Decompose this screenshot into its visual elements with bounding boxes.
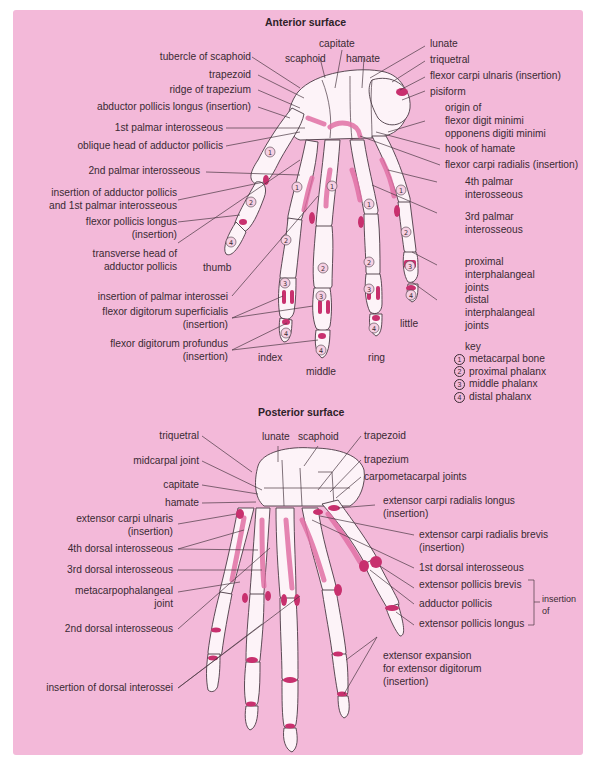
label-p-scaphoid: scaphoid (298, 431, 339, 444)
label-1st-dorsal-interosseous: 1st dorsal interosseous (419, 562, 524, 575)
label-flexor-carpi-ulnaris: flexor carpi ulnaris (insertion) (430, 70, 561, 83)
label-abductor-pollicis-longus: abductor pollicis longus (insertion) (97, 101, 251, 114)
label-p-triquetral: triquetral (159, 430, 199, 443)
label-ecr-brevis: extensor carpi radialis brevis (419, 529, 548, 542)
label-and-1st-palmar-interosseous: and 1st palmar interosseous (49, 200, 177, 213)
bracket-label-of: of (542, 605, 550, 618)
label-2nd-palmar-interosseous: 2nd palmar interosseous (88, 165, 200, 178)
posterior-hand (178, 436, 540, 752)
label-proximal-joints: joints (465, 282, 489, 295)
label-hamate: hamate (346, 53, 380, 66)
label-scaphoid: scaphoid (285, 53, 326, 66)
svg-text:3: 3 (367, 286, 371, 294)
label-trapezoid: trapezoid (209, 69, 251, 82)
label-oblique-head-adductor-pollicis: oblique head of adductor pollicis (77, 140, 223, 153)
svg-text:4: 4 (319, 347, 323, 355)
label-p-trapezium: trapezium (364, 454, 409, 467)
label-extensor-pollicis-brevis: extensor pollicis brevis (419, 579, 521, 592)
svg-text:4: 4 (409, 292, 413, 300)
label-insertion-adductor-pollicis: insertion of adductor pollicis (51, 187, 177, 200)
svg-text:1: 1 (399, 187, 403, 195)
key-title: key (465, 341, 481, 354)
label-2nd-dorsal-interosseous: 2nd dorsal interosseous (65, 623, 173, 636)
label-4th-dorsal-interosseous: 4th dorsal interosseous (68, 543, 173, 556)
label-3rd-palmar: 3rd palmar (465, 211, 514, 224)
bracket-label-insertion: insertion (542, 593, 576, 606)
label-ridge-of-trapezium: ridge of trapezium (169, 84, 251, 97)
label-distal-joints: joints (465, 320, 489, 333)
label-adductor-pollicis: adductor pollicis (104, 261, 177, 274)
key-item-metacarpal: 1metacarpal bone (454, 353, 546, 366)
svg-text:2: 2 (321, 265, 325, 273)
key-item-distal-phalanx: 4distal phalanx (454, 391, 546, 404)
label-flexor-pollicis-longus-insertion: (insertion) (132, 229, 177, 242)
label-for-extensor-digitorum: for extensor digitorum (383, 663, 482, 676)
label-ecr-longus-insertion: (insertion) (383, 508, 428, 521)
label-p-lunate: lunate (262, 431, 290, 444)
label-transverse-head-of: transverse head of (93, 248, 177, 261)
label-extensor-expansion: extensor expansion (383, 650, 471, 663)
label-1st-palmar-interosseous: 1st palmar interosseous (115, 122, 223, 135)
svg-text:1: 1 (367, 201, 371, 209)
svg-text:2: 2 (367, 259, 371, 267)
key-list: 1metacarpal bone 2proximal phalanx 3midd… (454, 353, 546, 403)
label-metacarpophalangeal: metacarpophalangeal (75, 585, 173, 598)
svg-text:2: 2 (404, 229, 408, 237)
label-proximal: proximal (465, 256, 504, 269)
label-distal: distal (465, 294, 489, 307)
label-ecr-longus: extensor carpi radialis longus (383, 495, 515, 508)
svg-text:1: 1 (330, 183, 334, 191)
label-opponens-digiti-minimi: opponens digiti minimi (445, 128, 546, 141)
label-capitate: capitate (319, 38, 355, 51)
label-flexor-digitorum-profundus: flexor digitorum profundus (110, 338, 228, 351)
label-ecu-insertion: (insertion) (128, 526, 173, 539)
label-extensor-pollicis-longus: extensor pollicis longus (419, 618, 524, 631)
svg-text:2: 2 (284, 237, 288, 245)
svg-text:3: 3 (408, 263, 412, 271)
digit-little: little (400, 318, 418, 331)
label-hook-of-hamate: hook of hamate (445, 143, 515, 156)
svg-text:4: 4 (229, 239, 233, 247)
posterior-surface-title: Posterior surface (258, 406, 344, 418)
label-flexor-carpi-radialis: flexor carpi radialis (insertion) (445, 159, 578, 172)
label-origin-of: origin of (445, 102, 481, 115)
label-insertion-palmar-interossei: insertion of palmar interossei (98, 291, 228, 304)
label-triquetral: triquetral (430, 54, 470, 67)
label-fdp-insertion: (insertion) (183, 351, 228, 364)
label-carpometacarpal-joints: carpometacarpal joints (364, 471, 467, 484)
label-p-hamate: hamate (165, 497, 199, 510)
label-3rd-dorsal-interosseous: 3rd dorsal interosseous (67, 564, 173, 577)
label-tubercle-of-scaphoid: tubercle of scaphoid (160, 51, 251, 64)
svg-text:4: 4 (372, 325, 376, 333)
label-metacarpophalangeal-joint: joint (154, 598, 173, 611)
label-extensor-carpi-ulnaris: extensor carpi ulnaris (76, 513, 173, 526)
label-insertion-dorsal-interossei: insertion of dorsal interossei (46, 682, 173, 695)
anterior-surface-title: Anterior surface (265, 16, 346, 28)
svg-text:1: 1 (295, 184, 299, 192)
label-3rd-palmar-interosseous: interosseous (465, 224, 523, 237)
label-fds-insertion: (insertion) (183, 319, 228, 332)
label-extensor-digitorum-insertion: (insertion) (383, 676, 428, 689)
label-p-trapezoid: trapezoid (364, 430, 406, 443)
label-4th-palmar: 4th palmar (465, 176, 513, 189)
svg-text:3: 3 (283, 280, 287, 288)
label-pisiform: pisiform (430, 86, 466, 99)
digit-index: index (258, 352, 282, 365)
label-4th-palmar-interosseous: interosseous (465, 189, 523, 202)
svg-text:1: 1 (268, 149, 272, 157)
svg-text:2: 2 (249, 199, 253, 207)
digit-thumb: thumb (203, 262, 231, 275)
label-flexor-pollicis-longus: flexor pollicis longus (86, 216, 177, 229)
label-ecr-brevis-insertion: (insertion) (419, 542, 464, 555)
digit-ring: ring (368, 352, 385, 365)
label-p-capitate: capitate (163, 479, 199, 492)
digit-middle: middle (306, 366, 336, 379)
label-lunate: lunate (430, 38, 458, 51)
label-distal-interphalangeal: interphalangeal (465, 307, 535, 320)
svg-text:3: 3 (319, 293, 323, 301)
svg-text:4: 4 (284, 330, 288, 338)
label-proximal-interphalangeal: interphalangeal (465, 269, 535, 282)
key-item-middle-phalanx: 3middle phalanx (454, 378, 546, 391)
key-item-proximal-phalanx: 2proximal phalanx (454, 366, 546, 379)
label-p-adductor-pollicis: adductor pollicis (419, 598, 492, 611)
